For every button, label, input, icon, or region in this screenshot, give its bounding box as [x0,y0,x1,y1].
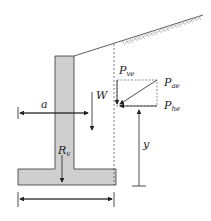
label-phe: Phe [163,99,180,113]
slope-hatching [122,16,201,45]
retaining-wall-diagram: Pve Pae Phe W a Rv y [0,0,211,221]
label-y: y [142,138,150,151]
label-a: a [41,98,48,111]
label-pve: Pve [118,64,135,78]
label-w: W [96,89,109,102]
pae-arrow [120,80,157,104]
label-pae: Pae [163,76,180,90]
backfill-slope [74,15,203,56]
retaining-wall [18,56,116,185]
